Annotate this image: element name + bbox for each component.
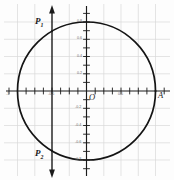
unit-circle-figure: P1 P2 O A -1 -0.5 0.5 0.8 0.6 0.4 0.2 -0… [0, 0, 174, 180]
y-tick-label-0-8: 0.8 [77, 20, 82, 24]
y-tick-label-neg-0-4: -0.4 [75, 124, 81, 128]
point-p1-subscript: 1 [41, 22, 44, 28]
arrowhead-down [49, 170, 55, 179]
y-tick-label-0-6: 0.6 [77, 37, 82, 41]
x-tick-label-neg-0-5: -0.5 [48, 93, 54, 97]
figure-canvas [0, 0, 174, 180]
point-a-label: A [158, 91, 163, 100]
point-p2-label: P2 [35, 149, 43, 161]
point-p2-marker [51, 150, 53, 152]
y-tick-label-0-4: 0.4 [77, 55, 82, 59]
axes [6, 6, 170, 176]
x-tick-label-neg-1: -1 [6, 93, 9, 97]
y-tick-label-0-2: 0.2 [77, 72, 82, 76]
y-tick-label-neg-0-2: -0.2 [75, 106, 81, 110]
x-tick-label-0-5: 0.5 [118, 93, 123, 97]
origin-label: O [89, 93, 95, 102]
y-tick-label-neg-0-6: -0.6 [75, 141, 81, 145]
point-a-marker [155, 90, 157, 92]
point-p2-subscript: 2 [41, 154, 44, 160]
arrowhead-up [49, 5, 55, 14]
y-tick-label-neg-0-8: -0.8 [75, 158, 81, 162]
point-p1-label: P1 [35, 17, 43, 29]
point-p1-marker [51, 30, 53, 32]
